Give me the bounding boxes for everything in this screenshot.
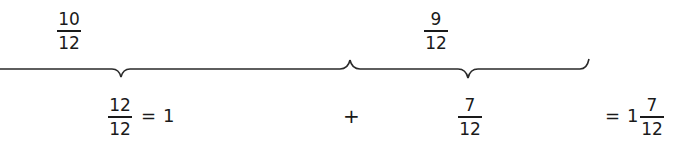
- result-whole: 1: [627, 106, 638, 126]
- numerator: 9: [431, 10, 442, 29]
- fraction-12-12: 12 12: [108, 96, 132, 139]
- denominator: 12: [425, 34, 447, 53]
- fraction-bar: [424, 30, 448, 32]
- equals-sign-2: =: [605, 106, 620, 126]
- top-fraction-9-12: 9 12: [424, 10, 448, 53]
- top-fraction-10-12: 10 12: [57, 10, 81, 53]
- denominator: 12: [459, 120, 481, 139]
- fraction-bar: [458, 116, 482, 118]
- value-one: 1: [163, 106, 174, 126]
- equals-sign-1: =: [141, 106, 156, 126]
- fraction-7-12: 7 12: [458, 96, 482, 139]
- fraction-bar: [57, 30, 81, 32]
- result-fraction-7-12: 7 12: [640, 96, 664, 139]
- denominator: 12: [641, 120, 663, 139]
- brace-right: [350, 59, 589, 78]
- fraction-bar: [640, 116, 664, 118]
- plus-sign: +: [343, 106, 360, 126]
- fraction-bar: [108, 116, 132, 118]
- denominator: 12: [58, 34, 80, 53]
- brace-left: [0, 60, 350, 77]
- numerator: 7: [465, 96, 476, 115]
- denominator: 12: [109, 120, 131, 139]
- numerator: 10: [58, 10, 80, 29]
- numerator: 12: [109, 96, 131, 115]
- braces: [0, 0, 676, 152]
- numerator: 7: [647, 96, 658, 115]
